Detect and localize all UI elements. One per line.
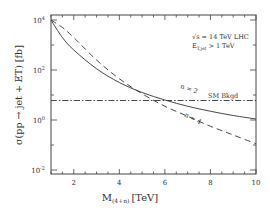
x-axis-label-unit: [TeV] [131, 192, 158, 203]
svg-text:M(4+n)[TeV]: M(4+n)[TeV] [102, 192, 159, 204]
y-tick-label: 100 [33, 115, 45, 125]
x-axis-label-sub: (4+n) [112, 197, 129, 204]
y-tick-label: 10-2 [31, 165, 45, 175]
y-axis-title: σ(pp → jet + E̸T) [fb] [13, 45, 24, 145]
y-tick-label: 104 [33, 15, 45, 25]
chart-canvas: 24681010-2100102104 σ(pp → jet + E̸T) [f… [0, 0, 270, 212]
energy-label: √s = 14 TeV LHC [192, 33, 249, 41]
x-axis-label-main: M [102, 192, 112, 203]
x-tick-label: 10 [252, 179, 261, 187]
n2-label: n = 2 [179, 82, 199, 95]
x-tick-label: 8 [208, 179, 212, 187]
cross-section-chart: 24681010-2100102104 σ(pp → jet + E̸T) [f… [0, 0, 270, 212]
n4-label: n = 4 [183, 111, 203, 126]
x-tick-label: 2 [72, 179, 76, 187]
et-sub-label: T,jet [197, 46, 207, 51]
x-tick-label: 4 [117, 179, 122, 187]
svg-text:ET,jet> 1 TeV: ET,jet> 1 TeV [192, 42, 235, 51]
y-tick-label: 102 [33, 65, 45, 75]
x-axis-title: M(4+n)[TeV] [102, 192, 159, 204]
x-tick-label: 6 [163, 179, 168, 187]
legend-annotation: √s = 14 TeV LHC ET,jet> 1 TeV [192, 33, 249, 51]
sm-bkgd-label: SM Bkgd [208, 92, 238, 100]
y-axis-label: σ(pp → jet + E̸T) [fb] [13, 45, 24, 145]
et-cut-label: > 1 TeV [208, 42, 234, 50]
